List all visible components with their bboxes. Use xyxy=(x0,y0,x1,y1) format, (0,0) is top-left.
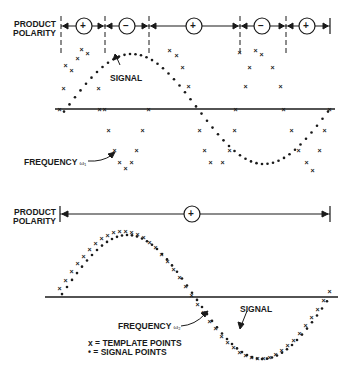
svg-text:×: × xyxy=(118,159,122,166)
svg-text:×: × xyxy=(76,260,80,267)
polarity-sign: − xyxy=(123,21,129,30)
svg-text:×: × xyxy=(64,277,68,284)
svg-text:×: × xyxy=(154,244,158,251)
svg-text:×: × xyxy=(178,274,182,281)
svg-text:×: × xyxy=(316,306,320,313)
svg-text:×: × xyxy=(310,314,314,321)
product-polarity-label-top: PRODUCT POLARITY xyxy=(8,20,56,38)
svg-text:×: × xyxy=(311,167,315,174)
svg-text:×: × xyxy=(226,339,230,346)
svg-text:×: × xyxy=(214,325,218,332)
svg-text:×: × xyxy=(141,127,145,134)
svg-text:×: × xyxy=(62,85,66,92)
svg-text:×: × xyxy=(254,47,258,54)
svg-text:×: × xyxy=(100,235,104,242)
svg-text:×: × xyxy=(318,147,322,154)
svg-text:×: × xyxy=(268,354,272,361)
svg-text:×: × xyxy=(209,159,213,166)
svg-text:×: × xyxy=(328,106,332,113)
svg-text:×: × xyxy=(58,106,62,113)
svg-text:×: × xyxy=(147,106,151,113)
legend-signal: • = SIGNAL POINTS xyxy=(88,348,167,357)
frequency-label-top: FREQUENCY ω₁ xyxy=(24,158,86,168)
svg-text:×: × xyxy=(250,354,254,361)
svg-text:×: × xyxy=(233,127,237,134)
svg-text:×: × xyxy=(70,268,74,275)
svg-text:×: × xyxy=(328,288,332,295)
svg-text:×: × xyxy=(98,106,102,113)
svg-text:×: × xyxy=(124,165,128,172)
polarity-sign: − xyxy=(258,21,264,30)
svg-text:×: × xyxy=(106,232,110,239)
svg-text:×: × xyxy=(80,46,84,53)
svg-text:×: × xyxy=(323,127,327,134)
svg-text:×: × xyxy=(148,239,152,246)
svg-text:×: × xyxy=(260,51,264,58)
svg-text:×: × xyxy=(290,127,294,134)
product-polarity-label-bottom: PRODUCT POLARITY xyxy=(8,208,56,226)
svg-text:×: × xyxy=(181,64,185,71)
signal-label-top: SIGNAL xyxy=(110,74,142,83)
svg-text:×: × xyxy=(103,106,107,113)
svg-text:×: × xyxy=(112,229,116,236)
svg-text:×: × xyxy=(305,159,309,166)
svg-text:×: × xyxy=(238,49,242,56)
svg-text:×: × xyxy=(172,266,176,273)
svg-text:×: × xyxy=(262,355,266,362)
svg-text:×: × xyxy=(228,147,232,154)
svg-text:×: × xyxy=(279,83,283,90)
svg-text:×: × xyxy=(244,83,248,90)
svg-text:×: × xyxy=(130,159,134,166)
svg-text:×: × xyxy=(86,50,90,57)
svg-text:×: × xyxy=(282,106,286,113)
svg-text:×: × xyxy=(130,229,134,236)
frequency-label-bottom: FREQUENCY ω₂ xyxy=(118,322,181,332)
svg-text:×: × xyxy=(203,147,207,154)
svg-text:×: × xyxy=(220,333,224,340)
svg-text:×: × xyxy=(97,85,101,92)
svg-text:×: × xyxy=(187,83,191,90)
svg-text:×: × xyxy=(76,55,80,62)
svg-text:×: × xyxy=(118,228,122,235)
svg-text:×: × xyxy=(280,347,284,354)
svg-text:×: × xyxy=(234,106,238,113)
svg-text:×: × xyxy=(298,330,302,337)
svg-text:×: × xyxy=(168,47,172,54)
svg-text:×: × xyxy=(248,64,252,71)
svg-text:×: × xyxy=(64,62,68,69)
svg-text:×: × xyxy=(88,246,92,253)
signal-label-bottom: SIGNAL xyxy=(240,305,272,314)
svg-text:×: × xyxy=(184,283,188,290)
svg-text:×: × xyxy=(238,349,242,356)
svg-text:×: × xyxy=(175,52,179,59)
svg-text:×: × xyxy=(286,342,290,349)
svg-text:×: × xyxy=(208,318,212,325)
svg-text:×: × xyxy=(292,337,296,344)
polarity-sign: + xyxy=(80,21,86,30)
svg-text:×: × xyxy=(107,127,111,134)
svg-text:×: × xyxy=(271,64,275,71)
svg-text:×: × xyxy=(142,234,146,241)
polarity-sign: + xyxy=(188,209,194,218)
svg-text:×: × xyxy=(124,228,128,235)
svg-text:×: × xyxy=(94,240,98,247)
svg-text:×: × xyxy=(198,127,202,134)
svg-text:×: × xyxy=(244,352,248,359)
svg-text:×: × xyxy=(82,253,86,260)
polarity-sign: + xyxy=(303,21,309,30)
correlation-diagram: ××××××××××××××××××××××××××××××××××××××××… xyxy=(0,0,355,368)
svg-text:×: × xyxy=(135,147,139,154)
svg-text:×: × xyxy=(70,67,74,74)
top-panel: ××××××××××××××××××××××××××××××××××××××××… xyxy=(55,16,335,174)
svg-text:×: × xyxy=(136,231,140,238)
svg-text:×: × xyxy=(304,322,308,329)
svg-text:×: × xyxy=(322,297,326,304)
svg-text:×: × xyxy=(221,159,225,166)
svg-text:×: × xyxy=(190,292,194,299)
svg-text:×: × xyxy=(58,285,62,292)
polarity-sign: + xyxy=(190,21,196,30)
svg-text:×: × xyxy=(297,147,301,154)
svg-text:×: × xyxy=(196,301,200,308)
svg-text:×: × xyxy=(274,351,278,358)
svg-text:×: × xyxy=(232,344,236,351)
